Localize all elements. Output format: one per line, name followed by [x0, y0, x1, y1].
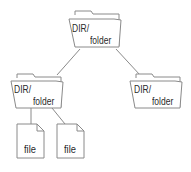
- file1-label: file: [24, 144, 36, 154]
- right-folder-label-line2: folder: [152, 97, 173, 107]
- right-folder-label-line1: DIR/: [134, 85, 151, 95]
- left-folder-label-line1: DIR/: [14, 85, 31, 95]
- root-folder-label-line2: folder: [90, 36, 111, 46]
- root-folder-label-line1: DIR/: [72, 24, 89, 34]
- edge-root-right: [116, 49, 140, 75]
- left-folder-label-line2: folder: [33, 97, 54, 107]
- edge-root-left: [57, 49, 80, 75]
- file2-label: file: [64, 144, 76, 154]
- edge-left-file2: [52, 108, 65, 124]
